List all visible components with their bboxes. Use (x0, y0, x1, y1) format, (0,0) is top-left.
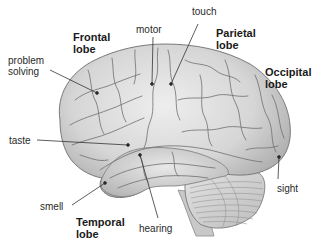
label-taste: taste (9, 135, 31, 146)
label-problem-solving: problem solving (8, 55, 44, 77)
parietal-lobe-line1: Parietal (216, 27, 256, 39)
temporal-lobe-line2: lobe (76, 228, 125, 240)
label-frontal-lobe: Frontal lobe (73, 31, 110, 55)
temporal-lobe-line1: Temporal (76, 216, 125, 228)
label-smell: smell (40, 201, 63, 212)
label-hearing: hearing (139, 223, 172, 234)
label-parietal-lobe: Parietal lobe (216, 27, 256, 51)
problem-solving-line2: solving (8, 66, 44, 77)
problem-solving-line1: problem (8, 55, 44, 66)
label-temporal-lobe: Temporal lobe (76, 216, 125, 240)
brain-diagram: Frontal lobe Parietal lobe Occipital lob… (0, 0, 315, 244)
occipital-lobe-line1: Occipital (265, 66, 311, 78)
parietal-lobe-line2: lobe (216, 39, 256, 51)
label-sight: sight (277, 183, 298, 194)
frontal-lobe-line2: lobe (73, 43, 110, 55)
label-touch: touch (192, 6, 216, 17)
occipital-lobe-line2: lobe (265, 78, 311, 90)
label-motor: motor (136, 24, 162, 35)
frontal-lobe-line1: Frontal (73, 31, 110, 43)
label-occipital-lobe: Occipital lobe (265, 66, 311, 90)
